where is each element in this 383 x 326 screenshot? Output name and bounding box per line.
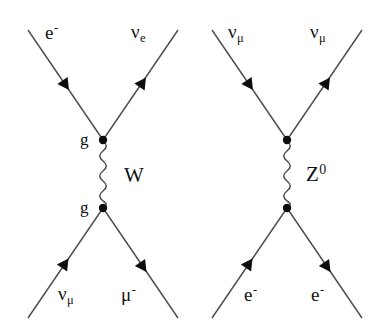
right-vertex-top-dot bbox=[283, 136, 291, 144]
w-boson-label-sup bbox=[144, 163, 145, 178]
left-vertex-bottom-coupling-label: g bbox=[80, 199, 89, 216]
right-diagram bbox=[212, 30, 362, 318]
w-boson-label-base: W bbox=[124, 163, 144, 187]
z-boson-label-base: Z bbox=[306, 162, 319, 186]
z-boson-label: Z0 bbox=[306, 163, 326, 185]
left-leg-top-right-label-sub: e bbox=[140, 31, 146, 45]
left-vertex-bottom-dot bbox=[99, 204, 107, 212]
left-leg-top-right-label: νe bbox=[131, 22, 146, 45]
left-vertex-top-coupling-label: g bbox=[80, 131, 89, 148]
right-leg-bottom-right-label-sup: - bbox=[319, 283, 324, 297]
left-leg-bottom-left-label-base: ν bbox=[58, 283, 67, 304]
left-leg-top-left-label-sup: - bbox=[53, 21, 58, 35]
right-leg-top-left-arrow-icon bbox=[241, 77, 258, 93]
left-leg-bottom-left-arrow-icon bbox=[57, 255, 74, 271]
left-leg-top-right-label-base: ν bbox=[131, 21, 140, 42]
right-vertex-bottom-dot bbox=[283, 204, 291, 212]
right-leg-top-right-arrow-icon bbox=[318, 74, 335, 90]
right-leg-top-right-label-base: ν bbox=[310, 21, 319, 42]
right-leg-bottom-left-label: e- bbox=[244, 284, 257, 304]
right-leg-top-left-label-base: ν bbox=[228, 21, 237, 42]
right-leg-bottom-left-label-sup: - bbox=[252, 283, 257, 297]
right-leg-top-right-label: νμ bbox=[310, 22, 326, 45]
left-leg-bottom-left-label-sub: μ bbox=[67, 293, 74, 307]
right-leg-bottom-right-arrow-icon bbox=[319, 259, 336, 275]
left-leg-top-left-label: e- bbox=[45, 22, 58, 42]
feynman-diagram-figure: e- νe νμ μ- g g W νμ νμ e- e- Z0 bbox=[0, 0, 383, 326]
right-leg-top-right-label-sub: μ bbox=[319, 31, 326, 45]
left-leg-bottom-right-label-sup: - bbox=[131, 283, 136, 297]
left-leg-top-left-arrow-icon bbox=[57, 77, 74, 93]
left-leg-top-right-arrow-icon bbox=[134, 74, 151, 90]
w-boson-propagator-wave bbox=[100, 141, 107, 207]
right-leg-bottom-right-label: e- bbox=[311, 284, 324, 304]
z-boson-propagator-wave bbox=[284, 141, 291, 207]
z-boson-label-sup: 0 bbox=[319, 162, 326, 177]
left-leg-bottom-right-label-base: μ bbox=[121, 284, 131, 305]
left-leg-bottom-right-label: μ- bbox=[121, 284, 136, 304]
w-boson-label: W bbox=[124, 164, 144, 186]
left-leg-bottom-left-label: νμ bbox=[58, 284, 74, 307]
left-leg-bottom-right-arrow-icon bbox=[135, 259, 152, 275]
left-vertex-top-dot bbox=[99, 136, 107, 144]
right-leg-bottom-left-arrow-icon bbox=[241, 255, 258, 271]
right-leg-top-left-label-sub: μ bbox=[237, 31, 244, 45]
right-leg-top-left-label: νμ bbox=[228, 22, 244, 45]
left-diagram bbox=[28, 30, 178, 318]
